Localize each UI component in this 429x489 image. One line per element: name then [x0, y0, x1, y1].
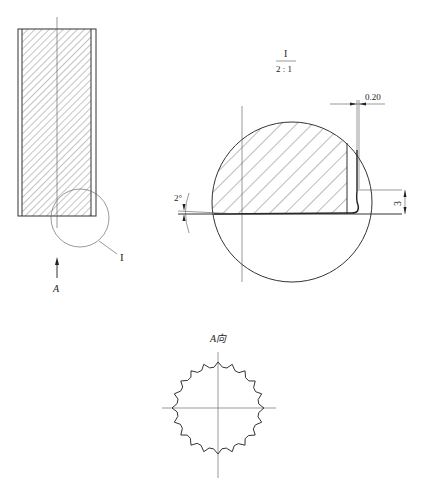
- detail-view: I 2 : 1 0.20 3 2°: [174, 48, 407, 282]
- dim-arrow-right: [359, 103, 366, 106]
- dim-arrow-left: [350, 103, 357, 106]
- callout-label: I: [120, 251, 124, 263]
- angle-arrow-top: [183, 204, 186, 211]
- dim-arrow-down: [404, 207, 407, 214]
- detail-scale: 2 : 1: [276, 64, 292, 74]
- dim-arrow-up: [404, 190, 407, 197]
- technical-drawing: I A I 2 : 1 0.20 3: [0, 0, 429, 489]
- callout-leader: [99, 241, 117, 254]
- view-arrow-head: [55, 257, 59, 265]
- detail-title: I: [284, 48, 287, 59]
- view-direction-label: A: [52, 283, 60, 294]
- dim-height: 3: [392, 201, 403, 206]
- angle-arc: [186, 193, 190, 233]
- angle-arrow-bottom: [183, 214, 186, 221]
- dim-angle: 2°: [174, 193, 183, 203]
- detail-hatched-area: [200, 100, 347, 214]
- end-view-label: A向: [209, 333, 227, 344]
- hatched-body: [22, 29, 91, 216]
- dim-gap-width: 0.20: [365, 92, 381, 102]
- end-view: A向: [162, 333, 276, 478]
- main-section-view: I A: [18, 17, 124, 294]
